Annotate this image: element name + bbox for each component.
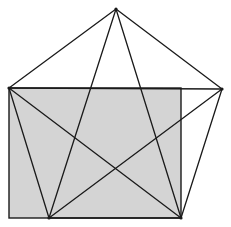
- vertex-top: [114, 7, 117, 10]
- pentagon-pentagram-diagram: [0, 0, 231, 227]
- pentagon-edge-right-to-bottom-right: [181, 89, 222, 218]
- vertex-left: [7, 86, 10, 89]
- pentagon-edge-top-to-right: [116, 9, 222, 89]
- pentagon-edge-left-to-top: [9, 9, 116, 88]
- vertex-right: [220, 87, 223, 90]
- vertex-bottom-right: [179, 216, 182, 219]
- vertex-bottom-left: [47, 216, 50, 219]
